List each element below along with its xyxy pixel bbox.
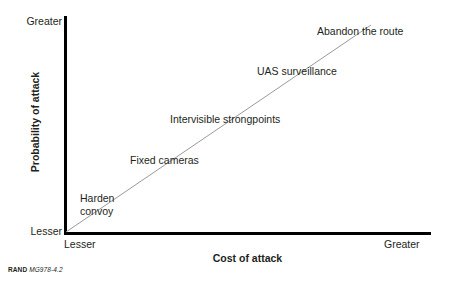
y-axis-title: Probability of attack [29,42,41,202]
y-axis-line [64,16,67,235]
annotation-uas-surveillance: UAS surveillance [257,65,337,78]
annotation-intervisible-strongpoints: Intervisible strongpoints [170,113,280,126]
y-axis-tick-lesser: Lesser [30,225,62,237]
x-axis-tick-lesser: Lesser [64,238,96,250]
x-axis-title: Cost of attack [64,252,431,264]
annotation-abandon-the-route: Abandon the route [317,25,403,38]
rand-brand-label: RAND [8,266,27,273]
x-axis-line [64,232,431,235]
annotation-harden-convoy: Harden convoy [80,192,114,217]
document-id-label: MG978-4.2 [29,266,62,273]
y-axis-tick-greater: Greater [26,15,62,27]
figure-footer: RANDMG978-4.2 [8,266,63,273]
figure-container: Greater Lesser Lesser Greater Probabilit… [0,0,449,291]
x-axis-tick-greater: Greater [384,238,420,250]
annotation-fixed-cameras: Fixed cameras [130,154,199,167]
